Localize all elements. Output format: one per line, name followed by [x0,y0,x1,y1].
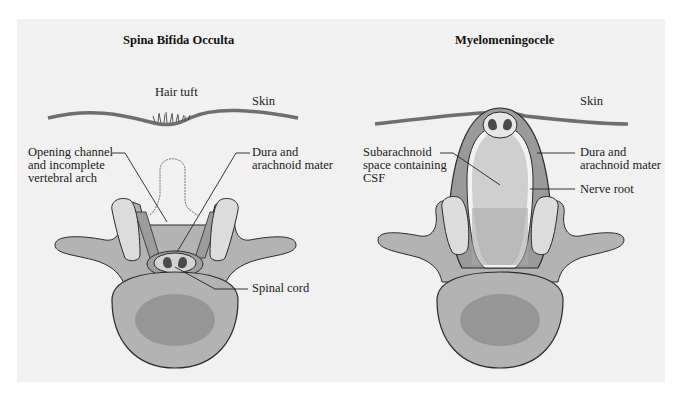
label-dura-right: Dura and arachnoid mater [580,146,661,172]
title-myelomeningocele: Myelomeningocele [455,33,554,48]
label-hair-tuft: Hair tuft [155,86,198,99]
label-skin-left: Skin [252,95,275,108]
label-spinal-cord: Spinal cord [252,282,309,295]
label-subarachnoid: Subarachnoid space containing CSF [363,146,447,185]
diagram-illustration [0,0,681,397]
label-nerve-root: Nerve root [580,183,634,196]
label-opening-channel: Opening channel and incomplete vertebral… [28,146,113,185]
label-skin-right: Skin [580,95,603,108]
title-spina-bifida-occulta: Spina Bifida Occulta [123,33,234,48]
label-dura-left: Dura and arachnoid mater [252,146,333,172]
